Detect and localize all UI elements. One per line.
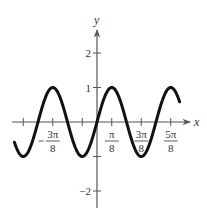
y-tick-label: 2 — [86, 47, 92, 59]
svg-text:5π: 5π — [165, 128, 177, 140]
svg-text:π: π — [109, 128, 115, 140]
svg-text:8: 8 — [109, 142, 115, 154]
svg-text:8: 8 — [138, 142, 144, 154]
svg-text:3π: 3π — [136, 128, 148, 140]
y-axis-label: y — [93, 13, 100, 27]
sine-plot: x y 3π8π83π85π8 21−2 — [0, 0, 207, 218]
x-tick-label: 5π8 — [164, 128, 178, 154]
y-tick-label: −2 — [79, 185, 91, 197]
y-tick-label: 1 — [86, 82, 92, 94]
svg-text:8: 8 — [168, 142, 174, 154]
svg-text:8: 8 — [50, 142, 56, 154]
x-tick-label: 3π8 — [39, 128, 60, 154]
svg-text:3π: 3π — [47, 128, 59, 140]
x-axis-label: x — [193, 115, 200, 129]
x-tick-label: π8 — [105, 128, 119, 154]
